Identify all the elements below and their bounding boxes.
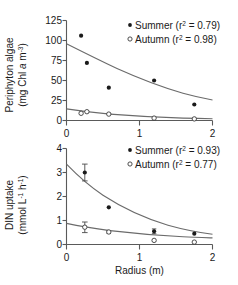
top-xtick-2: 2: [210, 128, 216, 139]
data-point: [152, 238, 156, 242]
bottom-y-ticks: [63, 149, 67, 245]
bottom-x-ticks: [67, 245, 213, 250]
top-summer-fit-curve: [67, 44, 213, 100]
top-x-ticks: [67, 121, 213, 126]
bottom-y-axis-title-line1: DIN uptake: [4, 180, 15, 230]
data-point: [107, 230, 111, 234]
bottom-ytick-2: 2: [56, 191, 62, 202]
data-point: [85, 110, 89, 114]
legend-marker-autumn-icon: [128, 162, 132, 166]
top-summer-points: [79, 34, 196, 107]
legend-summer-tail: = 0.79): [186, 20, 220, 31]
bottom-legend: Summer (r2 = 0.93) Autumn (r2 = 0.77): [128, 145, 220, 170]
top-y-unit-post: ): [17, 43, 28, 46]
legend-autumn-text: Autumn (r: [135, 159, 180, 170]
legend-autumn-text: Autumn (r: [135, 34, 180, 45]
top-legend: Summer (r2 = 0.79) Autumn (r2 = 0.98): [128, 20, 220, 45]
data-point: [107, 86, 111, 90]
top-ytick-75: 75: [51, 55, 63, 66]
legend-summer-text: Summer (r: [135, 145, 183, 156]
data-point: [79, 111, 83, 115]
legend-marker-autumn-icon: [128, 37, 132, 41]
legend-marker-summer-icon: [128, 148, 132, 152]
bottom-y-unit-mid: h: [17, 184, 28, 192]
top-y-axis-title-line1: Periphyton algae: [4, 37, 15, 112]
legend-autumn-tail: = 0.98): [183, 34, 217, 45]
data-point: [152, 78, 156, 82]
bottom-panel: DIN uptake (mmol L-1 h-1) 4 3 2 1 0 0: [4, 143, 220, 276]
top-ytick-100: 100: [45, 35, 62, 46]
bottom-xtick-1: 1: [137, 252, 143, 263]
bottom-xtick-2: 2: [210, 252, 216, 263]
data-point: [192, 232, 196, 236]
data-point: [152, 229, 156, 233]
data-point: [79, 34, 83, 38]
top-ytick-25: 25: [51, 95, 63, 106]
data-point: [107, 112, 111, 116]
legend-label-autumn: Autumn (r2 = 0.77): [135, 159, 217, 170]
data-point: [107, 205, 111, 209]
bottom-y-axis-title: DIN uptake (mmol L-1 h-1): [4, 175, 28, 234]
two-panel-scatter-chart: Periphyton algae (mg Chl a m-3) 125 100 …: [0, 0, 238, 285]
bottom-summer-errorbars: [82, 164, 156, 234]
legend-summer-tail: = 0.93): [186, 145, 220, 156]
bottom-summer-points: [83, 170, 197, 235]
data-point: [192, 117, 196, 121]
top-autumn-points: [79, 110, 197, 122]
top-xtick-1: 1: [137, 128, 143, 139]
top-y-unit-pre: (mg Chl: [17, 69, 28, 107]
data-point: [83, 225, 87, 229]
top-ytick-125: 125: [45, 15, 62, 26]
top-ytick-50: 50: [51, 75, 63, 86]
bottom-ytick-4: 4: [56, 143, 62, 154]
data-point: [85, 61, 89, 65]
top-y-axis-title: Periphyton algae (mg Chl a m-3): [4, 37, 28, 112]
top-xtick-0: 0: [64, 128, 70, 139]
data-point: [83, 170, 87, 174]
top-ytick-0: 0: [56, 115, 62, 126]
data-point: [192, 102, 196, 106]
bottom-summer-fit-curve: [67, 164, 213, 234]
bottom-ytick-3: 3: [56, 167, 62, 178]
legend-autumn-tail: = 0.77): [183, 159, 217, 170]
bottom-x-axis-title: Radius (m): [115, 265, 164, 276]
bottom-y-unit-pre: (mmol L: [17, 198, 28, 235]
bottom-y-unit-post: ): [17, 175, 28, 178]
top-panel: Periphyton algae (mg Chl a m-3) 125 100 …: [4, 15, 220, 139]
legend-label-autumn: Autumn (r2 = 0.98): [135, 34, 217, 45]
top-y-unit-mid: m: [17, 52, 28, 63]
legend-marker-summer-icon: [128, 23, 132, 27]
bottom-xtick-0: 0: [64, 252, 70, 263]
bottom-ytick-1: 1: [56, 215, 62, 226]
legend-label-summer: Summer (r2 = 0.93): [135, 145, 220, 156]
data-point: [152, 116, 156, 120]
bottom-ytick-0: 0: [56, 239, 62, 250]
figure-container: Periphyton algae (mg Chl a m-3) 125 100 …: [0, 0, 238, 285]
top-y-ticks: [63, 21, 67, 121]
data-point: [192, 240, 196, 244]
legend-label-summer: Summer (r2 = 0.79): [135, 20, 220, 31]
legend-summer-text: Summer (r: [135, 20, 183, 31]
top-y-axis-title-line2: (mg Chl a m-3): [17, 43, 28, 107]
bottom-y-axis-title-line2: (mmol L-1 h-1): [17, 175, 28, 234]
